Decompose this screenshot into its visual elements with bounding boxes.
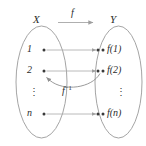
domain-ellipsis: ⋮ — [29, 87, 39, 97]
codomain-element-label-1: f(1) — [107, 44, 121, 54]
codomain-dot-n — [97, 113, 100, 116]
forward-map-label: f — [71, 8, 74, 18]
codomain-set-label: Y — [110, 14, 116, 25]
codomain-dot-1 — [97, 49, 100, 52]
domain-dot-n — [43, 113, 46, 116]
codomain-element-label-n: f(n) — [107, 108, 121, 118]
domain-element-label-1: 1 — [27, 44, 32, 54]
codomain-element-label-2: f(2) — [107, 65, 121, 75]
domain-dot-1 — [43, 49, 46, 52]
domain-set-label: X — [33, 14, 40, 25]
inverse-map-superscript: −1 — [65, 84, 72, 91]
codomain-dot-n-inner — [102, 113, 105, 116]
codomain-dot-1-inner — [102, 49, 105, 52]
domain-element-label-n: n — [27, 108, 32, 118]
codomain-dot-2-inner — [102, 70, 105, 73]
set-mapping-diagram: X Y f f−1 1 2 ⋮ n f(1) f(2) ⋮ f(n) — [0, 0, 146, 146]
inverse-map-arrow — [47, 74, 101, 88]
codomain-dot-2 — [97, 70, 100, 73]
domain-dot-2 — [43, 70, 46, 73]
diagram-canvas — [0, 0, 146, 146]
codomain-ellipsis: ⋮ — [116, 87, 126, 97]
domain-element-label-2: 2 — [27, 65, 32, 75]
domain-set-ellipse — [16, 26, 67, 138]
inverse-map-label: f−1 — [62, 85, 72, 96]
